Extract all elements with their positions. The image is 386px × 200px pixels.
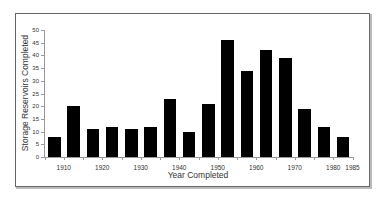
x-tick — [333, 157, 334, 160]
x-tick — [237, 157, 238, 160]
x-tick — [141, 157, 142, 160]
bar — [125, 129, 138, 157]
y-tick — [41, 68, 44, 69]
bar — [164, 99, 177, 157]
x-tick — [276, 157, 277, 160]
x-tick-label: 1970 — [283, 164, 307, 171]
x-tick-label: 1910 — [52, 164, 76, 171]
y-tick — [41, 55, 44, 56]
y-tick — [41, 94, 44, 95]
y-tick — [41, 132, 44, 133]
y-tick — [41, 119, 44, 120]
bar — [298, 109, 311, 157]
x-tick — [45, 157, 46, 160]
x-tick — [256, 157, 257, 160]
y-tick — [41, 30, 44, 31]
bar — [221, 40, 234, 157]
bar — [279, 58, 292, 157]
y-tick — [41, 81, 44, 82]
bar — [202, 104, 215, 157]
x-tick — [64, 157, 65, 160]
bar — [318, 127, 331, 157]
x-tick — [160, 157, 161, 160]
chart-frame — [15, 13, 370, 187]
x-tick — [353, 157, 354, 160]
x-tick — [102, 157, 103, 160]
y-tick — [41, 106, 44, 107]
y-tick — [41, 144, 44, 145]
y-axis-title: Storage Reservoirs Completed — [20, 28, 30, 158]
bar — [260, 50, 273, 157]
bar — [87, 129, 100, 157]
x-tick — [179, 157, 180, 160]
bar — [106, 127, 119, 157]
x-tick — [218, 157, 219, 160]
x-axis-title: Year Completed — [148, 170, 248, 180]
bar — [241, 71, 254, 157]
x-tick — [199, 157, 200, 160]
bar — [144, 127, 157, 157]
bar — [67, 106, 80, 157]
x-tick-label: 1985 — [341, 164, 365, 171]
bar — [183, 132, 196, 157]
x-tick — [295, 157, 296, 160]
y-tick — [41, 43, 44, 44]
x-tick — [314, 157, 315, 160]
frame-shadow — [16, 187, 372, 189]
x-tick-label: 1920 — [90, 164, 114, 171]
y-axis — [44, 30, 45, 157]
x-tick — [122, 157, 123, 160]
bar — [337, 137, 350, 157]
bar — [48, 137, 61, 157]
frame-shadow-right — [370, 14, 372, 189]
x-tick — [83, 157, 84, 160]
